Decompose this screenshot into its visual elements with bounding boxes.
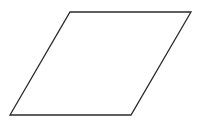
diagram-canvas [0,0,198,133]
parallelogram-shape [10,12,191,115]
